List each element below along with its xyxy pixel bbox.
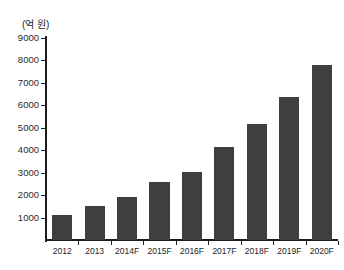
x-axis-label: 2019F: [273, 247, 305, 256]
bar-chart-figure: (억 원) 9000800070006000500040003000200010…: [0, 0, 344, 270]
y-axis-unit-label: (억 원): [22, 16, 49, 31]
x-axis-label: 2017F: [208, 247, 240, 256]
y-axis-tick: [41, 60, 46, 61]
bar: [52, 215, 72, 240]
x-axis-tick: [111, 241, 112, 245]
y-axis-tick-label: 3000: [0, 168, 39, 178]
y-axis-tick-label: 9000: [0, 33, 39, 43]
y-axis-tick-label-text: 7000: [5, 78, 39, 88]
y-axis-tick-label: 1000: [0, 213, 39, 223]
y-axis-tick-label-text: 3000: [5, 168, 39, 178]
x-axis-tick: [78, 241, 79, 245]
x-axis-tick: [306, 241, 307, 245]
x-axis-label: 2018F: [241, 247, 273, 256]
y-axis-tick-label: 2000: [0, 190, 39, 200]
bar: [149, 182, 169, 240]
x-axis-label: 2012: [46, 247, 78, 256]
y-axis-tick: [41, 38, 46, 39]
x-axis-label: 2013: [78, 247, 110, 256]
y-axis-tick: [41, 173, 46, 174]
x-axis-label: 2016F: [176, 247, 208, 256]
y-axis-line: [45, 36, 47, 242]
y-axis-tick-label-text: 4000: [5, 145, 39, 155]
y-axis-tick: [41, 105, 46, 106]
y-axis-tick-label-text: 9000: [5, 33, 39, 43]
x-axis-label: 2014F: [111, 247, 143, 256]
y-axis-tick-label: 7000: [0, 78, 39, 88]
bar: [117, 197, 137, 240]
x-axis-label: 2015F: [143, 247, 175, 256]
y-axis-tick-label: 8000: [0, 55, 39, 65]
bar: [182, 172, 202, 240]
y-axis-tick: [41, 150, 46, 151]
y-axis-tick-label-text: 2000: [5, 190, 39, 200]
y-axis-tick: [41, 218, 46, 219]
y-axis-tick-label: 6000: [0, 100, 39, 110]
x-axis-tick: [208, 241, 209, 245]
x-axis-label: 2020F: [306, 247, 338, 256]
y-axis-tick-label-text: 5000: [5, 123, 39, 133]
bar: [85, 206, 105, 240]
bar: [312, 65, 332, 240]
x-axis-tick: [273, 241, 274, 245]
y-axis-tick-label: 4000: [0, 145, 39, 155]
y-axis-tick-label-text: 1000: [5, 213, 39, 223]
y-axis-tick-label: 5000: [0, 123, 39, 133]
x-axis-tick: [338, 241, 339, 245]
bar: [279, 97, 299, 240]
bar: [214, 147, 234, 240]
x-axis-tick: [143, 241, 144, 245]
y-axis-tick-label-text: 6000: [5, 100, 39, 110]
x-axis-tick: [241, 241, 242, 245]
y-axis-tick-label-text: 8000: [5, 55, 39, 65]
y-axis-tick: [41, 83, 46, 84]
y-axis-tick: [41, 128, 46, 129]
bar: [247, 124, 267, 240]
y-axis-tick: [41, 195, 46, 196]
x-axis-tick: [176, 241, 177, 245]
